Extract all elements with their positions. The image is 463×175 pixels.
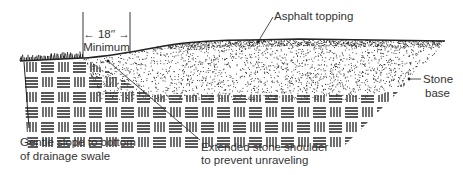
asphalt-dot (411, 39, 412, 40)
stipple-dot (101, 98, 102, 99)
stipple-dot (367, 89, 368, 90)
asphalt-dot (439, 46, 440, 47)
stipple-dot (148, 91, 149, 92)
stipple-dot (365, 64, 366, 65)
stipple-dot (193, 90, 194, 91)
stipple-dot (362, 82, 363, 83)
asphalt-dot (278, 42, 279, 43)
stipple-dot (93, 90, 94, 91)
stipple-dot (188, 56, 189, 57)
stipple-dot (204, 89, 205, 90)
stipple-dot (442, 61, 443, 62)
stipple-dot (395, 75, 396, 76)
stipple-dot (293, 75, 294, 76)
asphalt-dot (225, 44, 226, 45)
hatch-tile (59, 92, 68, 102)
stipple-dot (104, 84, 105, 85)
stipple-dot (360, 89, 361, 90)
stipple-dot (377, 51, 378, 52)
stipple-dot (160, 63, 161, 64)
asphalt-dot (199, 39, 200, 40)
stipple-dot (399, 77, 400, 78)
stipple-dot (260, 81, 261, 82)
stipple-dot (305, 75, 306, 76)
asphalt-dot (183, 42, 184, 43)
asphalt-dot (375, 46, 376, 47)
stipple-dot (363, 46, 364, 47)
stipple-dot (292, 77, 293, 78)
asphalt-dot (356, 38, 357, 39)
stipple-dot (312, 65, 313, 66)
asphalt-dot (448, 45, 449, 46)
stipple-dot (378, 63, 379, 64)
stipple-dot (100, 72, 101, 73)
asphalt-dot (414, 48, 415, 49)
stipple-dot (177, 93, 178, 94)
stipple-dot (413, 90, 414, 91)
stipple-dot (406, 82, 407, 83)
asphalt-dot (257, 49, 258, 50)
asphalt-dot (196, 40, 197, 41)
stipple-dot (208, 64, 209, 65)
stipple-dot (193, 58, 194, 59)
stipple-dot (187, 51, 188, 52)
stipple-dot (277, 97, 278, 98)
asphalt-dot (427, 41, 428, 42)
stipple-dot (405, 45, 406, 46)
asphalt-dot (381, 42, 382, 43)
asphalt-dot (366, 48, 367, 49)
asphalt-dot (289, 42, 290, 43)
stipple-dot (410, 64, 411, 65)
stipple-dot (374, 89, 375, 90)
stipple-dot (217, 96, 218, 97)
stipple-dot (430, 38, 431, 39)
stipple-dot (196, 67, 197, 68)
stipple-dot (375, 97, 376, 98)
stipple-dot (103, 61, 104, 62)
stipple-dot (185, 90, 186, 91)
asphalt-dot (183, 48, 184, 49)
stipple-dot (213, 97, 214, 98)
stipple-dot (180, 83, 181, 84)
stipple-dot (225, 64, 226, 65)
stipple-dot (340, 86, 341, 87)
stipple-dot (392, 76, 393, 77)
stipple-dot (413, 99, 414, 100)
stipple-dot (211, 85, 212, 86)
stipple-dot (229, 65, 230, 66)
asphalt-dot (251, 42, 252, 43)
hatch-tile (409, 108, 422, 117)
stipple-dot (277, 50, 278, 51)
stipple-dot (151, 60, 152, 61)
stone-base-label-1: Stone (423, 73, 453, 85)
stipple-dot (291, 83, 292, 84)
stipple-dot (298, 42, 299, 43)
hatch-tile (121, 108, 134, 117)
stipple-dot (93, 80, 94, 81)
asphalt-dot (343, 43, 344, 44)
stipple-dot (318, 96, 319, 97)
asphalt-dot (285, 48, 286, 49)
stipple-dot (325, 74, 326, 75)
asphalt-dot (420, 38, 421, 39)
stipple-dot (198, 94, 199, 95)
asphalt-dot (174, 48, 175, 49)
stipple-dot (215, 76, 216, 77)
asphalt-dot (215, 43, 216, 44)
asphalt-dot (190, 40, 191, 41)
stipple-dot (359, 98, 360, 99)
stipple-dot (286, 60, 287, 61)
stipple-dot (315, 82, 316, 83)
stipple-dot (129, 73, 130, 74)
stipple-dot (105, 85, 106, 86)
stipple-dot (416, 77, 417, 78)
stipple-dot (217, 75, 218, 76)
stipple-dot (109, 72, 110, 73)
stipple-dot (297, 61, 298, 62)
asphalt-dot (409, 49, 410, 50)
stipple-dot (174, 76, 175, 77)
stipple-dot (193, 94, 194, 95)
stipple-dot (432, 55, 433, 56)
asphalt-dot (165, 42, 166, 43)
asphalt-dot (390, 41, 391, 42)
